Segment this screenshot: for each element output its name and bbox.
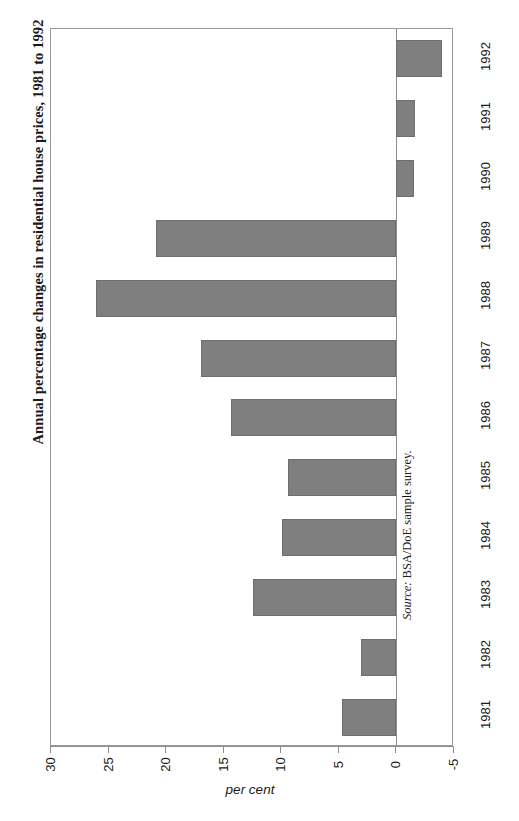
value-tick-label--5: -5 [446, 745, 461, 785]
category-label-1986: 1986 [478, 385, 493, 445]
value-tick-label-10: 10 [273, 745, 288, 785]
bar-1985 [288, 459, 396, 496]
category-label-1989: 1989 [478, 206, 493, 266]
value-axis-title: per cent [150, 782, 350, 797]
bar-1989 [156, 220, 397, 257]
category-label-1987: 1987 [478, 326, 493, 386]
bar-1986 [231, 399, 397, 436]
value-tick-label-0: 0 [388, 745, 403, 785]
category-label-1985: 1985 [478, 445, 493, 505]
bar-1981 [342, 699, 396, 736]
page-title: Annual percentage changes in residential… [30, 25, 47, 445]
category-label-1984: 1984 [478, 505, 493, 565]
category-label-1981: 1981 [478, 685, 493, 745]
value-tick-label-5: 5 [330, 745, 345, 785]
category-label-1982: 1982 [478, 625, 493, 685]
value-tick-label-30: 30 [43, 745, 58, 785]
bar-1983 [253, 579, 397, 616]
source-label: Source: [400, 582, 414, 620]
source-text: BSA/DoE sample survey. [400, 450, 414, 578]
plot-area [50, 28, 453, 746]
bar-1984 [282, 519, 396, 556]
category-label-1991: 1991 [478, 86, 493, 146]
value-tick-label-25: 25 [100, 745, 115, 785]
category-label-1992: 1992 [478, 26, 493, 86]
category-label-1983: 1983 [478, 565, 493, 625]
bar-1987 [201, 340, 397, 377]
bar-1991 [396, 100, 414, 137]
source-note: Source: BSA/DoE sample survey. [400, 370, 415, 620]
category-label-1988: 1988 [478, 266, 493, 326]
bar-1988 [96, 280, 397, 317]
value-tick-label-15: 15 [215, 745, 230, 785]
bar-1982 [361, 639, 397, 676]
value-tick-label-20: 20 [158, 745, 173, 785]
bar-1992 [396, 40, 442, 77]
bar-1990 [396, 160, 413, 197]
category-label-1990: 1990 [478, 146, 493, 206]
